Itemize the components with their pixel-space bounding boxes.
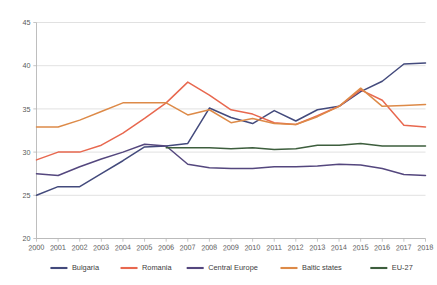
x-tick-label: 2012	[287, 242, 304, 252]
x-tick-label: 2000	[28, 242, 45, 252]
series-line-eu-27	[166, 143, 425, 149]
x-tick-label: 2007	[179, 242, 196, 252]
x-tick-label: 2005	[136, 242, 153, 252]
line-chart: 202530354045 200020012002200320042005200…	[0, 0, 437, 285]
x-tick-label: 2008	[201, 242, 218, 252]
y-axis-labels: 202530354045	[23, 18, 31, 243]
x-axis-labels: 2000200120022003200420052006200720082009…	[28, 242, 434, 252]
x-tick-label: 2013	[309, 242, 326, 252]
x-tick-label: 2006	[158, 242, 175, 252]
legend-label-baltic-states: Baltic states	[302, 263, 342, 272]
x-tick-label: 2004	[114, 242, 131, 252]
y-axis-ticks	[33, 23, 36, 239]
x-tick-label: 2017	[395, 242, 412, 252]
x-tick-label: 2002	[71, 242, 88, 252]
y-tick-label: 25	[23, 191, 31, 200]
legend-label-romania: Romania	[142, 263, 172, 272]
x-tick-label: 2009	[223, 242, 240, 252]
y-tick-label: 35	[23, 105, 31, 114]
series-line-bulgaria	[37, 63, 426, 195]
chart-canvas: 202530354045 200020012002200320042005200…	[0, 0, 437, 285]
legend-label-eu-27: EU-27	[392, 263, 413, 272]
x-tick-label: 2014	[331, 242, 348, 252]
gridlines	[37, 23, 426, 239]
x-tick-label: 2016	[374, 242, 391, 252]
y-tick-label: 40	[23, 61, 31, 70]
x-tick-label: 2015	[352, 242, 369, 252]
chart-legend: BulgariaRomaniaCentral EuropeBaltic stat…	[50, 263, 412, 272]
x-tick-label: 2001	[50, 242, 67, 252]
x-axis-ticks	[37, 239, 426, 242]
x-tick-label: 2010	[244, 242, 261, 252]
y-tick-label: 20	[23, 234, 31, 243]
series-line-baltic-states	[37, 88, 426, 127]
legend-label-bulgaria: Bulgaria	[72, 263, 100, 272]
legend-label-central-europe: Central Europe	[208, 263, 258, 272]
x-tick-label: 2011	[266, 242, 282, 252]
y-tick-label: 45	[23, 18, 31, 27]
x-tick-label: 2018	[417, 242, 434, 252]
y-tick-label: 30	[23, 148, 31, 157]
x-tick-label: 2003	[93, 242, 110, 252]
data-series	[37, 63, 426, 195]
